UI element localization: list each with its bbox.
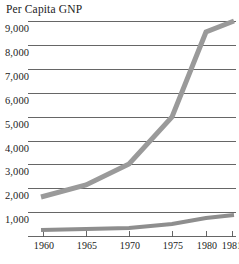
series-line-per-capita-gnp-lower [41,215,234,230]
plot-area [0,0,239,264]
xtick-label-1960: 1960 [34,240,54,251]
xtick-label-1965: 1965 [77,240,97,251]
ytick-label-6000: 6,000 [5,95,29,106]
xtick-label-1975: 1975 [163,240,183,251]
ytick-label-9000: 9,000 [5,23,29,34]
ytick-label-7000: 7,000 [5,71,29,82]
xtick-label-1970: 1970 [120,240,140,251]
series-line-per-capita-gnp-upper [41,21,234,197]
ytick-label-1000: 1,000 [5,214,29,225]
ytick-label-8000: 8,000 [5,47,29,58]
xtick-label-1980: 1980 [197,240,217,251]
ytick-label-5000: 5,000 [5,119,29,130]
ytick-label-4000: 4,000 [5,143,29,154]
gridlines [28,22,236,213]
ytick-label-3000: 3,000 [5,166,29,177]
xtick-label-1981: 1981 [222,240,239,251]
chart-figure: Per Capita GNP 9, [0,0,239,264]
ytick-label-2000: 2,000 [5,190,29,201]
